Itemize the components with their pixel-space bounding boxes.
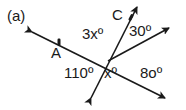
point-c-marker	[128, 14, 134, 22]
angle-diagram: (a) A C 3xº 30º 110º xº 8oº	[0, 0, 186, 110]
panel-label: (a)	[7, 8, 25, 23]
point-a-label: A	[51, 45, 61, 60]
diagram-lines	[0, 0, 186, 110]
point-c-label: C	[112, 7, 123, 22]
angle-label-bottom-left: 110º	[64, 65, 93, 80]
angle-label-top-left: 3xº	[82, 26, 103, 41]
angle-label-top-right: 30º	[129, 23, 151, 38]
angle-label-bottom-right: 8oº	[140, 65, 162, 80]
angle-label-bottom-center: xº	[104, 65, 117, 80]
